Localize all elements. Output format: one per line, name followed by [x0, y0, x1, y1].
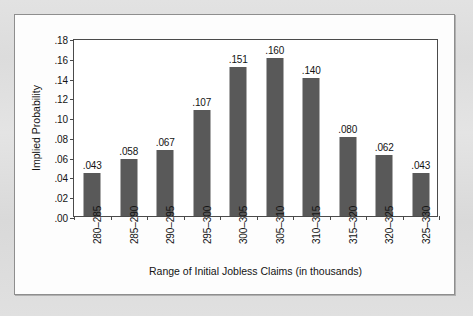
- x-axis-tick-label-text: 325–330: [421, 206, 432, 244]
- x-axis-tick-mark: [111, 216, 112, 220]
- plot-area: .043280–285.058285–290.067290–295.107295…: [73, 39, 438, 217]
- bar-chart: Implied Probability .043280–285.058285–2…: [15, 15, 456, 296]
- y-axis-tick-mark: [70, 119, 74, 120]
- y-axis-tick-mark: [70, 99, 74, 100]
- bars-layer: .043280–285.058285–290.067290–295.107295…: [74, 40, 437, 216]
- bar-value-label: .062: [375, 142, 394, 153]
- y-axis-tick-mark: [70, 40, 74, 41]
- bar-group: .067290–295: [147, 40, 184, 216]
- x-axis-tick-label: 285–290: [122, 223, 136, 236]
- bar-group: .160305–310: [257, 40, 294, 216]
- bar: [303, 78, 320, 216]
- x-axis-tick-label: 280–285: [85, 223, 99, 236]
- bar-group: .140310–315: [293, 40, 330, 216]
- y-axis-tick-mark: [70, 178, 74, 179]
- x-axis-tick-mark: [220, 216, 221, 220]
- x-axis-tick-label: 305–310: [268, 223, 282, 236]
- x-axis-tick-label-text: 310–315: [311, 206, 322, 244]
- x-axis-tick-label-text: 295–300: [202, 206, 213, 244]
- bar-group: .043280–285: [74, 40, 111, 216]
- x-axis-tick-label-text: 280–285: [92, 206, 103, 244]
- bar-group: .058285–290: [111, 40, 148, 216]
- figure-frame: Implied Probability .043280–285.058285–2…: [14, 14, 455, 295]
- x-axis-tick-label: 320–325: [377, 223, 391, 236]
- bar-group: .043325–330: [403, 40, 440, 216]
- bar-group: .062320–325: [366, 40, 403, 216]
- bar: [230, 67, 247, 216]
- x-axis-tick-mark: [366, 216, 367, 220]
- y-axis-title-label: Implied Probability: [30, 85, 42, 171]
- bar-group: .080315–320: [330, 40, 367, 216]
- x-axis-tick-label: 310–315: [304, 223, 318, 236]
- bar: [266, 58, 283, 216]
- bar-value-label: .160: [265, 45, 284, 56]
- x-axis-tick-mark: [293, 216, 294, 220]
- bar-value-label: .058: [119, 146, 138, 157]
- y-axis-tick-mark: [70, 159, 74, 160]
- bar-value-label: .107: [192, 97, 211, 108]
- y-axis-title: Implied Probability: [29, 39, 43, 217]
- x-axis-tick-label-text: 315–320: [348, 206, 359, 244]
- x-axis-tick-mark: [403, 216, 404, 220]
- x-axis-tick-label-text: 290–295: [165, 206, 176, 244]
- x-axis-tick-label: 315–320: [341, 223, 355, 236]
- bar-group: .107295–300: [184, 40, 221, 216]
- y-axis-tick-mark: [70, 198, 74, 199]
- bar-group: .151300–305: [220, 40, 257, 216]
- bar-value-label: .043: [83, 160, 102, 171]
- x-axis-tick-mark: [184, 216, 185, 220]
- y-axis-tick-mark: [70, 139, 74, 140]
- bar-value-label: .080: [338, 124, 357, 135]
- x-axis-tick-mark: [257, 216, 258, 220]
- bar-value-label: .140: [302, 65, 321, 76]
- x-axis-tick-label-text: 320–325: [384, 206, 395, 244]
- y-axis-tick-mark: [70, 80, 74, 81]
- y-axis-tick-mark: [70, 60, 74, 61]
- x-axis-tick-mark: [330, 216, 331, 220]
- bar-value-label: .151: [229, 54, 248, 65]
- x-axis-title: Range of Initial Jobless Claims (in thou…: [73, 265, 438, 277]
- x-axis-tick-mark: [74, 216, 75, 220]
- bar-value-label: .043: [411, 160, 430, 171]
- x-axis-tick-label: 295–300: [195, 223, 209, 236]
- x-axis-tick-label: 300–305: [231, 223, 245, 236]
- bar-value-label: .067: [156, 137, 175, 148]
- x-axis-tick-label: 290–295: [158, 223, 172, 236]
- bar: [193, 110, 210, 216]
- x-axis-tick-mark: [147, 216, 148, 220]
- x-axis-tick-label-text: 285–290: [129, 206, 140, 244]
- x-axis-tick-label-text: 305–310: [275, 206, 286, 244]
- x-axis-tick-label-text: 300–305: [238, 206, 249, 244]
- x-axis-tick-label: 325–330: [414, 223, 428, 236]
- bar: [339, 137, 356, 216]
- x-axis-tick-mark: [439, 216, 440, 220]
